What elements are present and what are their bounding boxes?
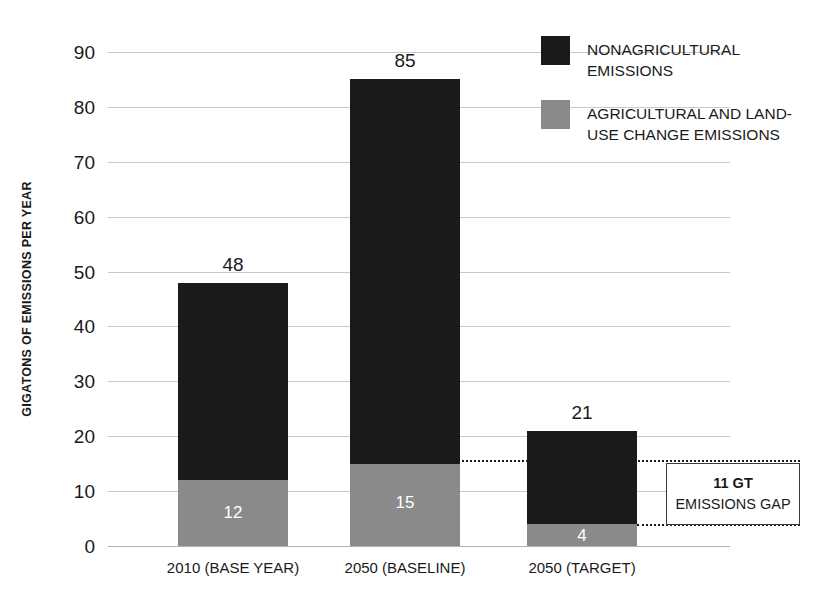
y-tick-label-90: 90 (74, 43, 95, 62)
legend: NONAGRICULTURAL EMISSIONS AGRICULTURAL A… (541, 36, 831, 164)
y-tick-label-20: 20 (74, 427, 95, 446)
bar-segment-value-2050-target: 4 (527, 527, 637, 544)
bar-segment-agricultural-2050-baseline[interactable]: 15 (350, 464, 460, 546)
y-axis-title-text: GIGATONS OF EMISSIONS PER YEAR (20, 181, 34, 416)
bar-2010-base-year[interactable]: 48 12 2010 (BASE YEAR) (178, 283, 288, 547)
y-tick-label-30: 30 (74, 372, 95, 391)
bar-segment-nonagricultural-2050-target[interactable] (527, 431, 637, 524)
bar-segment-nonagricultural-2010[interactable] (178, 283, 288, 481)
legend-label-agricultural: AGRICULTURAL AND LAND-USE CHANGE EMISSIO… (587, 100, 822, 146)
emissions-gap-caption: EMISSIONS GAP (675, 496, 790, 512)
bar-2050-target[interactable]: 21 4 2050 (TARGET) (527, 431, 637, 546)
legend-item-nonagricultural[interactable]: NONAGRICULTURAL EMISSIONS (541, 36, 831, 82)
y-tick-label-80: 80 (74, 97, 95, 116)
bar-segment-value-2050-baseline: 15 (350, 494, 460, 511)
legend-item-agricultural[interactable]: AGRICULTURAL AND LAND-USE CHANGE EMISSIO… (541, 100, 831, 146)
y-tick-label-70: 70 (74, 152, 95, 171)
y-tick-label-0: 0 (84, 537, 95, 556)
gridline-0: 0 (108, 546, 730, 547)
y-tick-label-50: 50 (74, 262, 95, 281)
emissions-gap-callout: 11 GT EMISSIONS GAP (666, 463, 800, 525)
y-tick-label-60: 60 (74, 207, 95, 226)
bar-segment-nonagricultural-2050-baseline[interactable] (350, 79, 460, 463)
emissions-gap-value: 11 GT (713, 475, 753, 491)
y-axis-title: GIGATONS OF EMISSIONS PER YEAR (10, 0, 44, 598)
x-axis-label-2010: 2010 (BASE YEAR) (167, 560, 299, 575)
legend-swatch-agricultural-icon (541, 100, 570, 129)
legend-label-nonagricultural: NONAGRICULTURAL EMISSIONS (587, 36, 822, 82)
gap-leader-line-upper (462, 460, 800, 462)
bar-segment-agricultural-2010[interactable]: 12 (178, 480, 288, 546)
emissions-gap-text: 11 GT EMISSIONS GAP (667, 473, 799, 515)
bar-total-label-2050-target: 21 (527, 403, 637, 422)
bar-total-label-2010: 48 (178, 255, 288, 274)
bar-total-label-2050-baseline: 85 (350, 51, 460, 70)
bar-segment-agricultural-2050-target[interactable]: 4 (527, 524, 637, 546)
bar-2050-baseline[interactable]: 85 15 2050 (BASELINE) (350, 79, 460, 546)
y-tick-label-40: 40 (74, 317, 95, 336)
x-axis-label-2050-target: 2050 (TARGET) (528, 560, 635, 575)
legend-swatch-nonagricultural-icon (541, 36, 570, 65)
emissions-bar-chart: GIGATONS OF EMISSIONS PER YEAR 90 80 70 … (0, 0, 839, 598)
y-tick-label-10: 10 (74, 482, 95, 501)
bar-segment-value-2010: 12 (178, 504, 288, 521)
x-axis-label-2050-baseline: 2050 (BASELINE) (345, 560, 466, 575)
